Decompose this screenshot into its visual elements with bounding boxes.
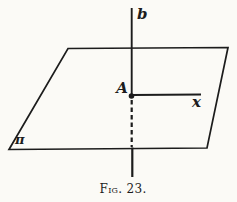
label-ray-x: x — [191, 93, 202, 111]
label-point-a: A — [114, 79, 128, 97]
point-a-dot — [129, 93, 135, 99]
ray-x — [132, 95, 201, 96]
figure-page: b A x π Fig. 23. — [0, 0, 237, 202]
figure-23-diagram: b A x π Fig. 23. — [0, 0, 237, 202]
figure-caption: Fig. 23. — [100, 182, 147, 196]
label-plane-pi: π — [14, 132, 25, 147]
label-line-b: b — [137, 5, 148, 23]
